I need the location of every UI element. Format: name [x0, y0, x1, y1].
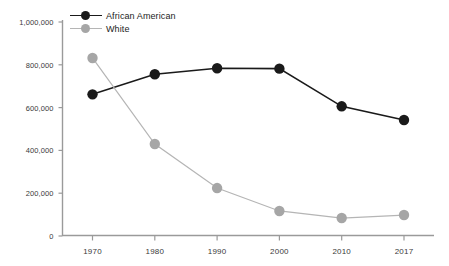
legend-label-african-american: African American	[106, 11, 176, 21]
data-point[interactable]	[274, 63, 284, 73]
series-line-white	[93, 58, 405, 218]
legend-item-african-american[interactable]: African American	[70, 9, 176, 22]
data-point[interactable]	[399, 115, 409, 125]
series-line-african-american	[93, 68, 405, 120]
data-point[interactable]	[337, 101, 347, 111]
data-point[interactable]	[274, 206, 284, 216]
data-point[interactable]	[337, 213, 347, 223]
legend-item-white[interactable]: White	[70, 22, 176, 35]
y-tick-label: 200,000	[0, 189, 54, 198]
data-point[interactable]	[150, 139, 160, 149]
data-point[interactable]	[212, 183, 222, 193]
x-tick-label: 1970	[83, 247, 102, 256]
series-lines	[93, 58, 405, 218]
legend-label-white: White	[106, 24, 130, 34]
data-point[interactable]	[87, 89, 97, 99]
x-tick-label: 2017	[395, 247, 414, 256]
x-tick-label: 1980	[145, 247, 164, 256]
x-tick-label: 1990	[208, 247, 227, 256]
y-tick-label: 0	[0, 232, 54, 241]
x-tick-label: 2010	[332, 247, 351, 256]
plot-area	[0, 0, 449, 266]
legend-marker-white	[70, 23, 102, 35]
data-point[interactable]	[212, 63, 222, 73]
x-axis-ticks	[93, 236, 405, 241]
legend-marker-african-american	[70, 10, 102, 22]
y-tick-label: 600,000	[0, 103, 54, 112]
y-tick-label: 800,000	[0, 60, 54, 69]
line-chart: 0200,000400,000600,000800,0001,000,000 1…	[0, 0, 449, 266]
data-point[interactable]	[399, 210, 409, 220]
data-point[interactable]	[150, 69, 160, 79]
chart-legend: African American White	[70, 9, 176, 35]
series-points	[87, 53, 409, 223]
x-tick-label: 2000	[270, 247, 289, 256]
y-tick-label: 400,000	[0, 146, 54, 155]
y-tick-label: 1,000,000	[0, 18, 54, 27]
data-point[interactable]	[87, 53, 97, 63]
